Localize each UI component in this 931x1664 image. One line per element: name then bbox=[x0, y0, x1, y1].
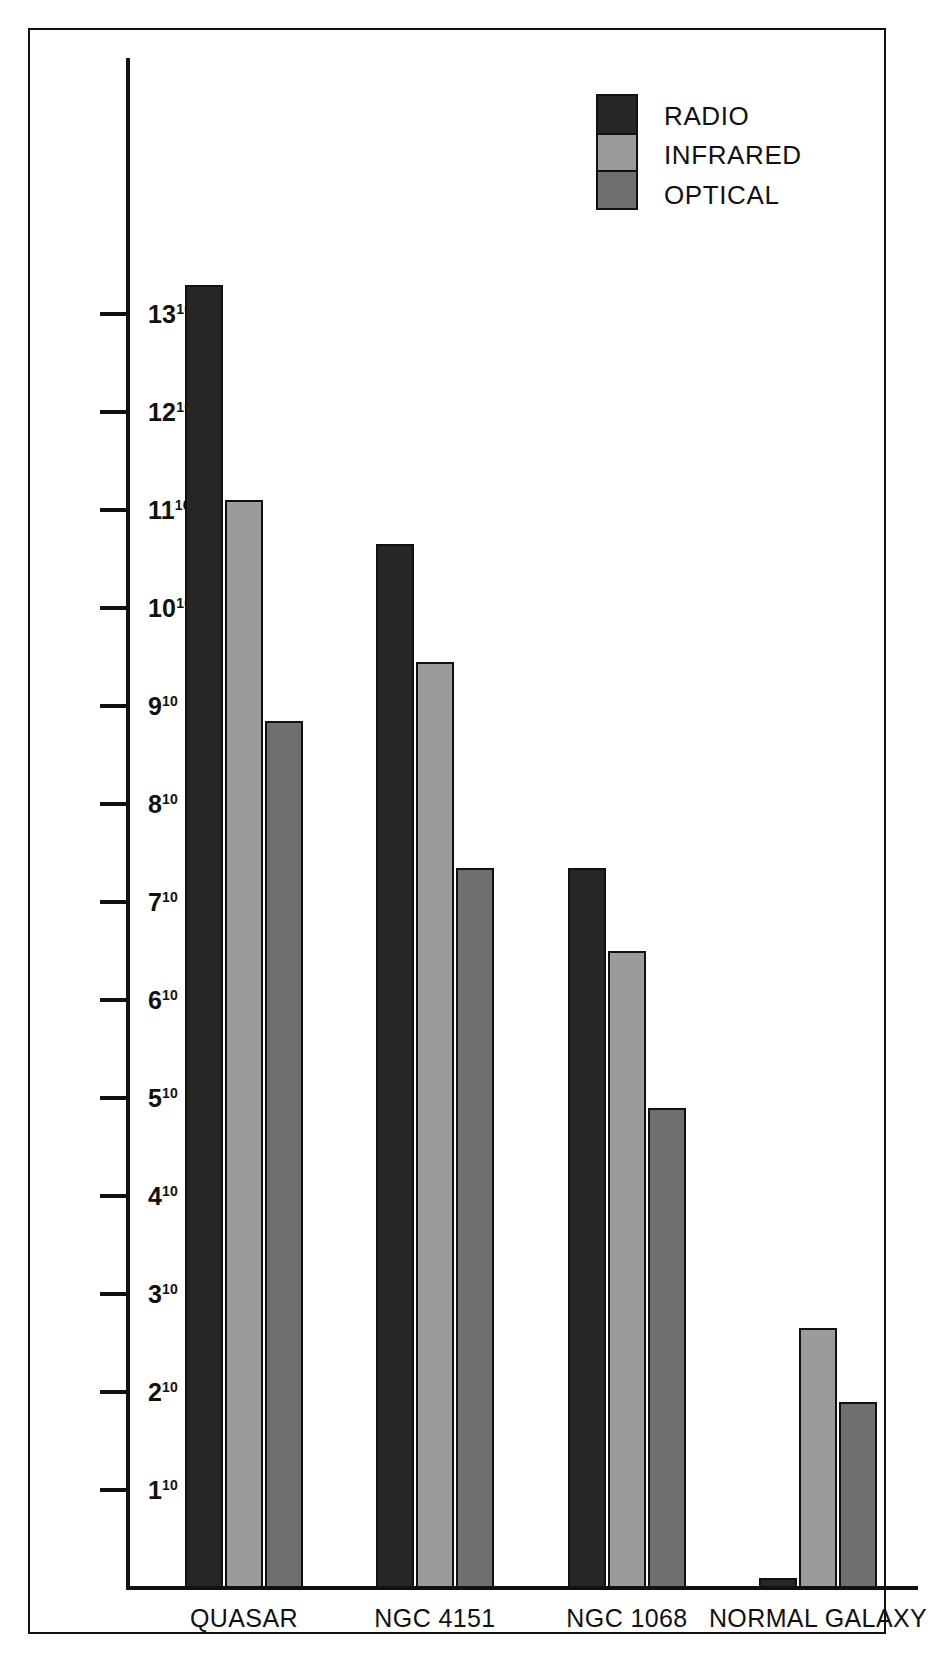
legend-label-optical: OPTICAL bbox=[664, 180, 779, 211]
y-tick-label: 910 bbox=[148, 689, 178, 723]
y-tick-mark bbox=[100, 802, 130, 806]
y-tick-mark bbox=[100, 1390, 130, 1394]
y-tick-label: 110 bbox=[148, 1473, 178, 1507]
y-tick-mark bbox=[100, 1194, 130, 1198]
y-tick-mark bbox=[100, 410, 130, 414]
y-tick-mark bbox=[100, 998, 130, 1002]
bar-radio-normal-galaxy bbox=[759, 1578, 797, 1588]
bar-radio-ngc-4151 bbox=[376, 544, 414, 1588]
y-axis-line bbox=[126, 58, 130, 1590]
bar-radio-quasar bbox=[185, 285, 223, 1588]
bar-radio-ngc-1068 bbox=[568, 868, 606, 1588]
bar-optical-ngc-1068 bbox=[648, 1108, 686, 1588]
y-tick-label: 410 bbox=[148, 1179, 178, 1213]
bar-infrared-normal-galaxy bbox=[799, 1328, 837, 1588]
legend: RADIO INFRARED OPTICAL bbox=[596, 94, 896, 220]
y-tick-mark bbox=[100, 1488, 130, 1492]
y-tick-label: 710 bbox=[148, 885, 178, 919]
y-tick-mark bbox=[100, 900, 130, 904]
y-tick-mark bbox=[100, 704, 130, 708]
bar-optical-quasar bbox=[265, 721, 303, 1588]
legend-label-infrared: INFRARED bbox=[664, 140, 802, 171]
legend-label-radio: RADIO bbox=[664, 101, 749, 132]
y-tick-mark bbox=[100, 508, 130, 512]
x-axis-label-normal-galaxy: NORMAL GALAXY bbox=[658, 1604, 931, 1633]
bar-infrared-quasar bbox=[225, 500, 263, 1588]
y-tick-label: 210 bbox=[148, 1375, 178, 1409]
y-tick-label: 810 bbox=[148, 787, 178, 821]
legend-swatch-stack bbox=[596, 94, 638, 210]
y-tick-mark bbox=[100, 1096, 130, 1100]
y-tick-label: 510 bbox=[148, 1081, 178, 1115]
bar-infrared-ngc-4151 bbox=[416, 662, 454, 1588]
legend-swatch-optical bbox=[598, 172, 636, 208]
y-tick-mark bbox=[100, 312, 130, 316]
bar-optical-ngc-4151 bbox=[456, 868, 494, 1588]
bar-infrared-ngc-1068 bbox=[608, 951, 646, 1588]
plot-area: 1102103104105106107108109101010111012101… bbox=[28, 28, 886, 1634]
y-tick-label: 610 bbox=[148, 983, 178, 1017]
y-tick-mark bbox=[100, 606, 130, 610]
bar-optical-normal-galaxy bbox=[839, 1402, 877, 1588]
y-tick-mark bbox=[100, 1292, 130, 1296]
y-tick-label: 310 bbox=[148, 1277, 178, 1311]
legend-swatch-radio bbox=[598, 96, 636, 133]
legend-swatch-infrared bbox=[598, 133, 636, 172]
